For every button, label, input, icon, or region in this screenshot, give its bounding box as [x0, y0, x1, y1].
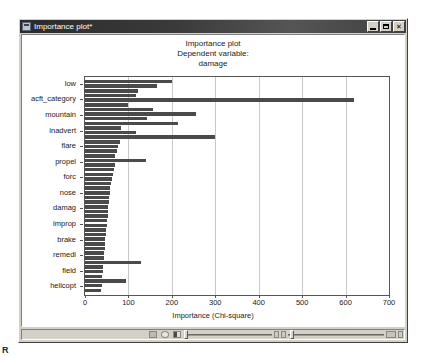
bar — [85, 256, 104, 260]
chart-title-block: Importance plot Dependent variable: dama… — [22, 39, 404, 69]
y-axis-label: improp — [53, 220, 76, 228]
horizontal-slider-2[interactable] — [288, 330, 384, 339]
y-axis-tick — [80, 146, 83, 147]
bar — [85, 94, 136, 98]
y-axis-tick — [80, 115, 83, 116]
bar — [85, 84, 157, 88]
y-axis-label: flare — [61, 142, 76, 150]
bar — [85, 135, 215, 139]
horizontal-slider-1[interactable] — [184, 330, 272, 339]
bar — [85, 163, 115, 167]
bar — [85, 214, 108, 218]
y-axis-tick — [80, 271, 83, 272]
slider-thumb[interactable] — [184, 330, 188, 339]
y-axis-label: field — [62, 267, 76, 275]
slider-track — [288, 334, 384, 336]
x-axis-tick-label: 500 — [296, 298, 309, 307]
bar — [85, 122, 178, 126]
contrast-icon[interactable] — [173, 331, 181, 338]
minimize-button[interactable] — [367, 21, 379, 32]
bar — [85, 270, 103, 274]
bar — [85, 98, 354, 102]
bar — [85, 228, 106, 232]
bar — [85, 126, 121, 130]
lock-icon[interactable] — [398, 331, 403, 338]
plot-window[interactable]: Importance plot* ✕ Importance plot Depen… — [18, 18, 408, 343]
bar — [85, 233, 106, 237]
bar — [85, 284, 102, 288]
y-axis-tick — [80, 193, 83, 194]
x-axis-title: Importance (Chi-square) — [22, 311, 404, 320]
bar — [85, 108, 153, 112]
y-axis-label: propel — [55, 158, 76, 166]
close-button[interactable]: ✕ — [393, 21, 405, 32]
x-axis-tick-label: 0 — [83, 298, 87, 307]
bar — [85, 196, 109, 200]
page-corner-mark: R — [2, 345, 9, 355]
y-axis-tick — [80, 99, 83, 100]
y-axis-tick — [80, 84, 83, 85]
bar — [85, 186, 110, 190]
bar — [85, 191, 110, 195]
bar — [85, 168, 114, 172]
x-axis-tick-label: 400 — [252, 298, 265, 307]
bar — [85, 177, 112, 181]
bar — [85, 80, 172, 84]
bar — [85, 210, 108, 214]
shape-icon[interactable] — [149, 331, 157, 338]
chart-title: Importance plot — [22, 39, 404, 49]
y-axis-label: brake — [57, 236, 76, 244]
x-axis-tick-label: 600 — [339, 298, 352, 307]
bar — [85, 182, 111, 186]
y-axis-tick — [80, 240, 83, 241]
y-axis-label: damag — [53, 204, 76, 212]
plot-area — [84, 76, 390, 296]
bar — [85, 117, 147, 121]
status-bar[interactable] — [21, 329, 405, 340]
bar — [85, 103, 128, 107]
y-axis-tick — [80, 224, 83, 225]
slider-thumb[interactable] — [290, 330, 294, 339]
y-axis-label: helicopt — [50, 282, 76, 290]
left-arrow-icon[interactable] — [274, 331, 279, 338]
bar — [85, 140, 120, 144]
bar — [85, 265, 103, 269]
bar — [85, 251, 104, 255]
y-axis-label: forc — [63, 173, 76, 181]
x-axis-tick-label: 300 — [209, 298, 222, 307]
gridline — [302, 77, 303, 295]
y-axis-tick — [80, 255, 83, 256]
right-arrow-icon[interactable] — [281, 331, 286, 338]
y-axis-label: low — [65, 80, 76, 88]
gridline — [215, 77, 216, 295]
bar — [85, 159, 146, 163]
zoom-icon[interactable] — [386, 331, 396, 338]
window-title: Importance plot* — [34, 22, 366, 31]
gridline — [172, 77, 173, 295]
bar — [85, 200, 109, 204]
circle-icon[interactable] — [161, 331, 169, 338]
bar — [85, 205, 108, 209]
bar — [85, 224, 107, 228]
gridline — [259, 77, 260, 295]
maximize-button[interactable] — [380, 21, 392, 32]
window-titlebar[interactable]: Importance plot* ✕ — [20, 20, 406, 33]
y-axis-tick — [80, 162, 83, 163]
y-axis-label: nose — [60, 189, 76, 197]
y-axis-tick — [80, 286, 83, 287]
x-axis-tick-label: 700 — [383, 298, 396, 307]
bar — [85, 89, 138, 93]
chart-dependent-variable: damage — [22, 59, 404, 69]
y-axis-labels: lowacft_categorymountaininadvertflarepro… — [22, 76, 80, 294]
bar — [85, 247, 105, 251]
y-axis-label: inadvert — [49, 127, 76, 135]
bar — [85, 242, 105, 246]
y-axis-tick — [80, 177, 83, 178]
x-axis-tick-labels: 0100200300400500600700 — [22, 298, 404, 310]
bar — [85, 261, 141, 265]
plot-client-area: Importance plot Dependent variable: dama… — [21, 34, 405, 327]
bar — [85, 279, 126, 283]
bar — [85, 289, 101, 293]
bar — [85, 173, 113, 177]
x-axis-tick-label: 100 — [122, 298, 135, 307]
